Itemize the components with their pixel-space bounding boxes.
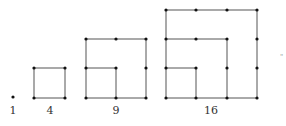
figure-4: [34, 68, 65, 98]
square-numbers-diagram: [0, 0, 286, 126]
label-1: 1: [10, 104, 17, 117]
figure-1: [11, 95, 14, 98]
figure-16: [166, 10, 257, 98]
label-9: 9: [113, 104, 120, 117]
label-4: 4: [47, 104, 54, 117]
stray-mark: ": [280, 53, 283, 61]
label-16: 16: [204, 104, 218, 117]
